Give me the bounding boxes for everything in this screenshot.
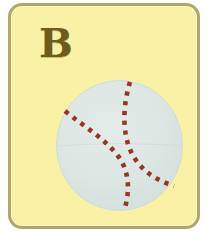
- baseball-body: [57, 81, 183, 211]
- alphabet-flashcard[interactable]: B: [8, 3, 200, 229]
- letter-glyph: B: [39, 22, 73, 64]
- baseball-illustration: [56, 80, 183, 211]
- flashcard-root: B: [0, 0, 209, 235]
- baseball-icon: [56, 80, 183, 211]
